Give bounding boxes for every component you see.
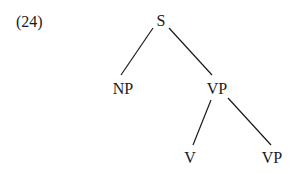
edge-vp-v (193, 100, 211, 145)
node-v: V (184, 150, 196, 166)
edge-vp-vp (228, 98, 271, 145)
edge-s-np (121, 28, 153, 75)
node-vp-lower: VP (262, 150, 282, 166)
node-np: NP (113, 81, 133, 97)
tree-edges (0, 0, 292, 173)
node-s: S (157, 13, 166, 29)
edge-s-vp (169, 28, 212, 75)
node-vp: VP (207, 81, 227, 97)
